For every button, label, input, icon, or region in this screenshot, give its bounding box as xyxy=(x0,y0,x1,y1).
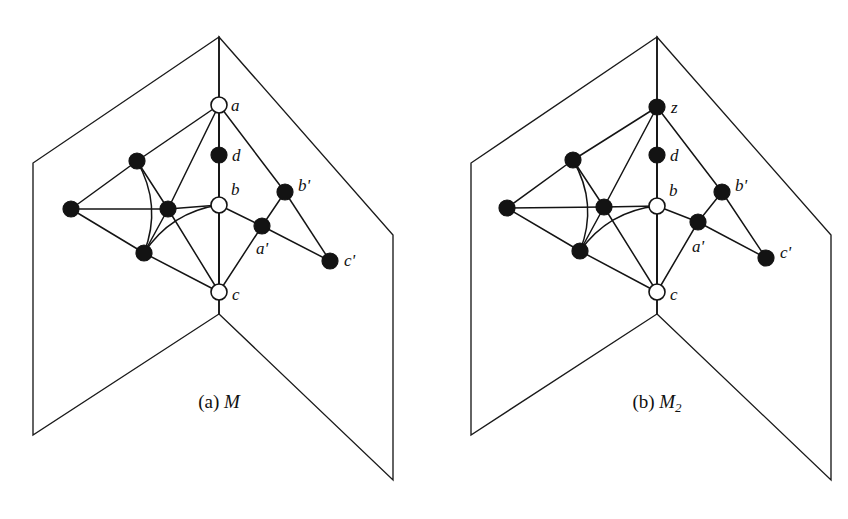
graph-edges xyxy=(507,107,766,292)
node-label: c' xyxy=(344,251,356,270)
graph-edge xyxy=(219,105,285,192)
caption-b: (b) M2 xyxy=(632,391,682,415)
graph-node-r[interactable] xyxy=(136,245,152,261)
graph-edge-curved xyxy=(573,160,588,251)
book-right-page xyxy=(657,37,831,480)
graph-edge xyxy=(698,222,766,258)
graph-node-a-prime[interactable] xyxy=(690,214,706,230)
figure-root: adbcb'a'c'zdbcb'a'c' (a) M(b) M2 xyxy=(0,0,848,519)
graph-edge xyxy=(71,161,137,209)
graph-node-d[interactable] xyxy=(649,147,665,163)
node-label: d xyxy=(670,146,679,165)
graph-node-z[interactable] xyxy=(649,99,665,115)
graph-edge xyxy=(507,160,573,208)
caption-a: (a) M xyxy=(198,391,241,413)
graph-edge xyxy=(657,222,698,292)
caption-prefix: (b) xyxy=(632,391,654,413)
node-label: b xyxy=(231,180,240,199)
panel-b: zdbcb'a'c' xyxy=(471,37,831,480)
graph-node-l[interactable] xyxy=(499,200,515,216)
caption-subscript: 2 xyxy=(675,400,682,415)
node-label: c xyxy=(670,285,678,304)
graph-edge xyxy=(604,207,657,292)
book-right-page xyxy=(219,37,393,480)
book-left-page xyxy=(33,37,219,435)
node-label: b' xyxy=(298,176,311,195)
book-left-page xyxy=(471,37,657,435)
graph-node-l[interactable] xyxy=(63,201,79,217)
node-label: z xyxy=(670,98,678,117)
graph-edge xyxy=(137,105,219,161)
graph-nodes: adbcb'a'c' xyxy=(63,96,356,304)
graph-node-b[interactable] xyxy=(211,197,227,213)
graph-node-c[interactable] xyxy=(649,284,665,300)
panels-layer: adbcb'a'c'zdbcb'a'c' xyxy=(33,37,831,480)
graph-node-b[interactable] xyxy=(649,198,665,214)
node-label: a xyxy=(231,96,240,115)
graph-edge xyxy=(507,207,604,208)
graph-node-p[interactable] xyxy=(565,152,581,168)
graph-edge xyxy=(219,226,262,292)
caption-name: M xyxy=(223,391,241,412)
graph-node-c-prime[interactable] xyxy=(758,250,774,266)
node-label: a' xyxy=(692,237,705,256)
graph-edge xyxy=(580,251,657,292)
graph-edge xyxy=(71,209,144,253)
graph-node-q[interactable] xyxy=(596,199,612,215)
graph-edge xyxy=(657,107,722,192)
graph-edges xyxy=(71,105,330,292)
graph-edge xyxy=(507,208,580,251)
graph-node-a[interactable] xyxy=(211,97,227,113)
graph-node-p[interactable] xyxy=(129,153,145,169)
graph-edge xyxy=(262,226,330,261)
graph-edge xyxy=(722,192,766,258)
graph-edge-curved xyxy=(137,161,152,253)
graph-edge-curved xyxy=(144,205,219,253)
graph-node-c-prime[interactable] xyxy=(322,253,338,269)
graph-edge xyxy=(285,192,330,261)
node-label: b xyxy=(669,181,678,200)
panel-a: adbcb'a'c' xyxy=(33,37,393,480)
graph-node-c[interactable] xyxy=(211,284,227,300)
graph-edge xyxy=(573,107,657,160)
graph-node-b-prime[interactable] xyxy=(714,184,730,200)
node-label: c' xyxy=(780,243,792,262)
figure-canvas: adbcb'a'c'zdbcb'a'c' (a) M(b) M2 xyxy=(0,0,848,519)
node-label: d xyxy=(232,146,241,165)
graph-node-b-prime[interactable] xyxy=(277,184,293,200)
graph-node-q[interactable] xyxy=(160,201,176,217)
graph-node-a-prime[interactable] xyxy=(254,218,270,234)
caption-prefix: (a) xyxy=(198,391,219,413)
node-label: b' xyxy=(735,176,748,195)
caption-name: M xyxy=(658,391,676,412)
captions-layer: (a) M(b) M2 xyxy=(198,391,682,415)
graph-node-d[interactable] xyxy=(211,147,227,163)
node-label: a' xyxy=(256,239,269,258)
graph-node-r[interactable] xyxy=(572,243,588,259)
node-label: c xyxy=(232,285,240,304)
